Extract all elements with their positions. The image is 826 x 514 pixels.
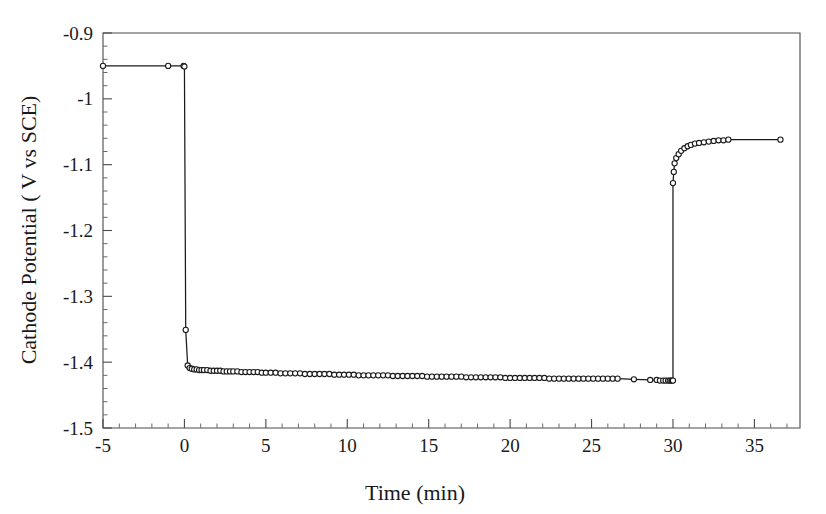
data-point-marker [672,161,677,166]
y-tick-label: -1.5 [63,418,93,439]
data-point-marker [671,169,676,174]
data-point-marker [615,376,620,381]
data-point-marker [100,63,105,68]
y-tick-label: -1.4 [63,352,94,373]
y-tick-label: -1.2 [63,220,93,241]
data-point-marker [166,63,171,68]
x-tick-label: 20 [501,435,520,456]
y-tick-label: -1.3 [63,286,93,307]
x-tick-label: 25 [582,435,601,456]
y-tick-label: -1 [77,88,93,109]
chart-canvas: -505101520253035 -0.9-1-1.1-1.2-1.3-1.4-… [0,0,826,514]
x-axis-title: Time (min) [365,480,465,505]
data-point-marker [726,137,731,142]
y-axis-title: Cathode Potential ( V vs SCE) [16,96,41,365]
x-tick-label: 30 [663,435,682,456]
y-tick-label: -0.9 [63,23,93,44]
x-tick-label: 35 [745,435,764,456]
data-point-marker [778,137,783,142]
chart-figure: -505101520253035 -0.9-1-1.1-1.2-1.3-1.4-… [0,0,826,514]
data-point-marker [183,327,188,332]
data-point-marker [182,64,187,69]
chart-background [0,0,826,514]
data-point-marker [631,377,636,382]
x-tick-label: -5 [95,435,111,456]
data-point-marker [648,377,653,382]
data-point-marker [670,378,675,383]
x-tick-label: 5 [261,435,271,456]
x-tick-label: 0 [180,435,190,456]
y-tick-label: -1.1 [63,154,93,175]
x-tick-label: 10 [338,435,357,456]
x-tick-label: 15 [419,435,438,456]
data-point-marker [670,181,675,186]
